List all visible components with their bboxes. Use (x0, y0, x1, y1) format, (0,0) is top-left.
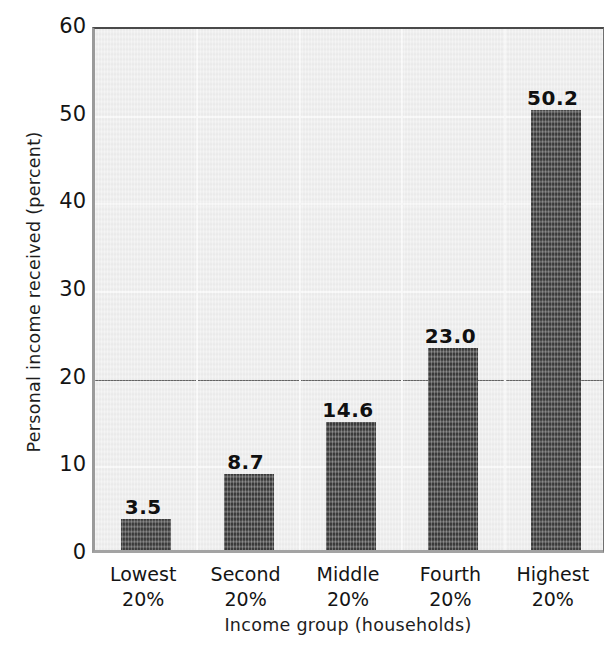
x-axis-tick-label-line1: Lowest (110, 563, 176, 585)
gridline-vertical (196, 29, 198, 550)
y-axis-tick-label: 20 (50, 367, 86, 388)
x-axis-tick-label-line1: Middle (317, 563, 380, 585)
bar-value-label: 3.5 (98, 495, 188, 519)
y-axis-tick-label: 10 (50, 454, 86, 475)
x-axis-tick-label-line2: 20% (297, 587, 399, 612)
x-axis-tick-label: Middle20% (297, 562, 399, 612)
y-axis-tick-label: 50 (50, 104, 86, 125)
x-axis-tick-label-line2: 20% (399, 587, 501, 612)
bar[interactable] (224, 474, 274, 550)
x-axis-tick-labels: Lowest20%Second20%Middle20%Fourth20%High… (92, 562, 604, 622)
gridline-horizontal (95, 291, 603, 293)
y-axis-tick-labels: 0102030405060 (46, 0, 86, 650)
x-axis-tick-label-line1: Highest (516, 563, 589, 585)
gridline-horizontal (95, 203, 603, 205)
gridline-vertical (504, 29, 506, 550)
bar-value-label: 14.6 (303, 398, 393, 422)
y-axis-tick-label: 0 (50, 542, 86, 563)
x-axis-tick-label: Lowest20% (92, 562, 194, 612)
x-axis-tick-label-line1: Fourth (420, 563, 481, 585)
x-axis-tick-label-line2: 20% (194, 587, 296, 612)
x-axis-tick-label-line2: 20% (92, 587, 194, 612)
x-axis-tick-label: Second20% (194, 562, 296, 612)
x-axis-tick-label: Fourth20% (399, 562, 501, 612)
y-axis-tick-label: 30 (50, 279, 86, 300)
gridline-vertical (401, 29, 403, 550)
x-axis-tick-label-line2: 20% (502, 587, 604, 612)
x-axis-title: Income group (households) (92, 615, 604, 635)
bar-value-label: 23.0 (405, 324, 495, 348)
bar-chart-figure: Personal income received (percent) 01020… (0, 0, 616, 650)
bar[interactable] (531, 110, 581, 550)
bar[interactable] (326, 422, 376, 550)
reference-line-20 (95, 380, 603, 381)
gridline-horizontal (95, 116, 603, 118)
bar-value-label: 8.7 (201, 450, 291, 474)
x-axis-tick-label: Highest20% (502, 562, 604, 612)
gridline-vertical (299, 29, 301, 550)
y-axis-tick-label: 60 (50, 16, 86, 37)
x-axis-tick-label-line1: Second (211, 563, 281, 585)
y-axis-title: Personal income received (percent) (24, 32, 44, 552)
bar-value-label: 50.2 (508, 86, 598, 110)
bar[interactable] (428, 348, 478, 550)
bar[interactable] (121, 519, 171, 550)
y-axis-tick-label: 40 (50, 191, 86, 212)
